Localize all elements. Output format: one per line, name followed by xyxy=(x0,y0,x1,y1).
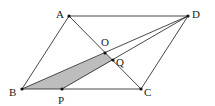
parallelogram-diagram: ADBCPOQ xyxy=(0,0,215,106)
geometry-figure: ADBCPOQ xyxy=(0,0,215,106)
label-o: O xyxy=(101,36,109,48)
point-d-icon xyxy=(186,14,189,17)
shaded-polygon xyxy=(22,53,113,89)
point-b-icon xyxy=(20,87,23,90)
point-a-icon xyxy=(67,14,70,17)
label-p: P xyxy=(58,94,64,106)
label-d: D xyxy=(192,8,200,20)
label-c: C xyxy=(144,86,151,98)
label-q: Q xyxy=(116,56,124,68)
label-a: A xyxy=(56,8,64,20)
shaded-region-bpqo xyxy=(22,53,113,89)
point-c-icon xyxy=(139,87,142,90)
point-o-icon xyxy=(103,51,106,54)
label-b: B xyxy=(9,86,16,98)
point-q-icon xyxy=(111,58,114,61)
point-p-icon xyxy=(60,87,63,90)
segment-dp xyxy=(62,16,188,89)
segment-dc xyxy=(141,16,188,89)
